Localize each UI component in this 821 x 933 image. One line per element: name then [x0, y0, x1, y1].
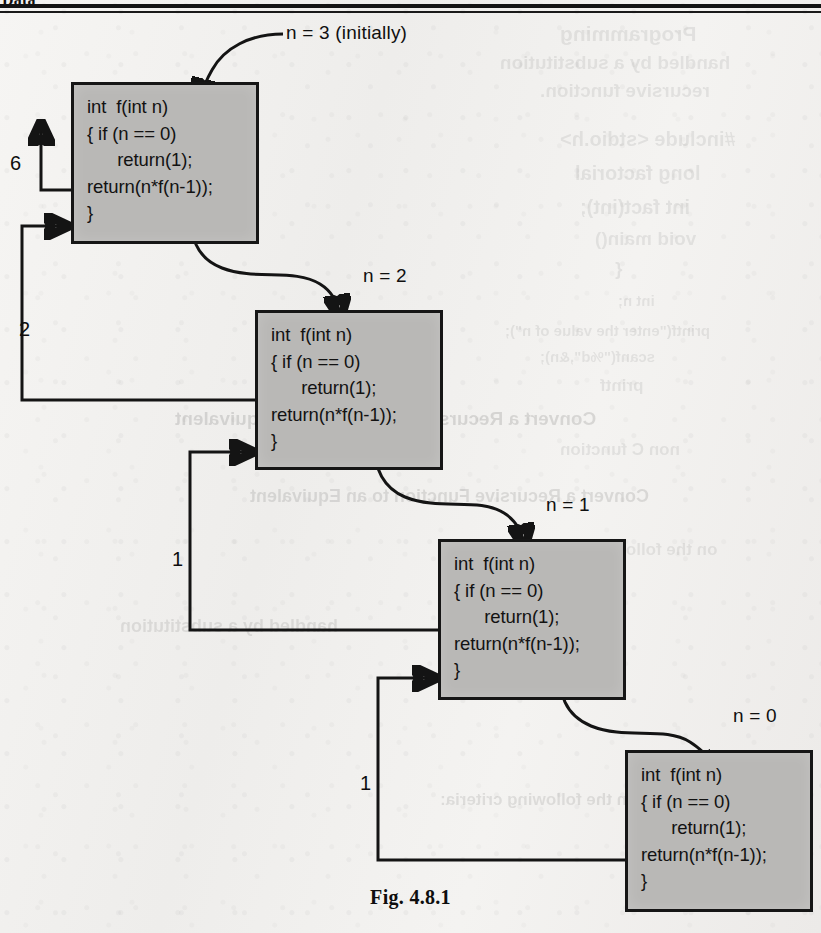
return-value-n1-to-n2: 1: [172, 548, 183, 571]
ghost-line-6: void main(): [595, 228, 696, 250]
frame-code-n0: int f(int n) { if (n == 0) return(1); re…: [641, 762, 767, 895]
ghost-line-17: handled by a substitution: [120, 616, 338, 637]
ghost-line-8: int n;: [618, 292, 655, 309]
call-frame-n2[interactable]: int f(int n) { if (n == 0) return(1); re…: [255, 310, 443, 470]
frame-code-n3: int f(int n) { if (n == 0) return(1); re…: [87, 94, 213, 227]
ghost-line-4: long factorial: [575, 162, 701, 185]
call-frame-n1[interactable]: int f(int n) { if (n == 0) return(1); re…: [438, 539, 626, 700]
header-rule-thick: [0, 4, 821, 8]
ghost-line-3: #include <stdio.h>: [560, 128, 736, 151]
return-value-final: 6: [10, 152, 21, 175]
ghost-line-13: non C function: [560, 440, 680, 460]
return-arrow-final: [41, 124, 71, 190]
return-value-n2-to-n3: 2: [19, 318, 30, 341]
return-value-n0-to-n1: 1: [360, 772, 371, 795]
ghost-line-10: scanf("%d",&n);: [540, 348, 655, 365]
figure-page: Programming handled by a substitution re…: [0, 0, 821, 933]
ghost-line-2: recursive function.: [540, 80, 710, 102]
figure-caption: Fig. 4.8.1: [0, 886, 821, 909]
call-label-n2: n = 2: [363, 265, 407, 287]
ghost-line-11: printf: [600, 376, 643, 396]
frame-code-n1: int f(int n) { if (n == 0) return(1); re…: [454, 551, 580, 684]
ghost-line-9: printf("enter the value of n");: [505, 322, 710, 339]
return-arrow-1a: [190, 452, 441, 630]
ghost-line-0: Programming: [560, 22, 697, 46]
call-label-n3: n = 3 (initially): [286, 22, 407, 44]
ghost-line-7: {: [615, 258, 622, 280]
header-rule-thin: [0, 11, 821, 13]
ghost-line-1: handled by a substitution: [500, 52, 730, 74]
call-label-n0: n = 0: [733, 705, 777, 727]
call-frame-n3[interactable]: int f(int n) { if (n == 0) return(1); re…: [71, 82, 259, 244]
frame-code-n2: int f(int n) { if (n == 0) return(1); re…: [271, 322, 397, 455]
call-label-n1: n = 1: [546, 494, 590, 516]
ghost-line-5: int fact(int);: [580, 196, 690, 219]
return-arrow-2: [22, 226, 258, 400]
ghost-line-16: on the following criteria:: [440, 790, 637, 810]
return-arrow-1b: [378, 678, 628, 860]
